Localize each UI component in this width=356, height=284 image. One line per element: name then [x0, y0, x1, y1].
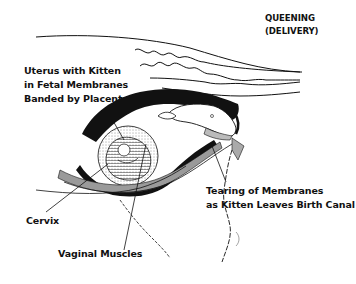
label-vaginal-muscles: Vaginal Muscles [58, 247, 142, 261]
label-tearing-line-1: Tearing of Membranes [206, 184, 355, 198]
leader-tearing [212, 146, 226, 182]
diagram-title: QUEENING (DELIVERY) [265, 12, 318, 38]
label-uterus-line-3: Banded by Placenta [24, 92, 129, 106]
queening-anatomy-illustration [0, 0, 356, 284]
label-uterus: Uterus with Kitten in Fetal Membranes Ba… [24, 64, 129, 106]
label-tearing-line-2: as Kitten Leaves Birth Canal [206, 198, 355, 212]
title-line-1: QUEENING [265, 12, 318, 25]
label-cervix: Cervix [26, 214, 59, 228]
torn-membrane [232, 138, 244, 160]
label-uterus-line-2: in Fetal Membranes [24, 78, 129, 92]
title-line-2: (DELIVERY) [265, 25, 318, 38]
kitten-fetus [106, 137, 151, 180]
label-uterus-line-1: Uterus with Kitten [24, 64, 129, 78]
label-tearing-of-membranes: Tearing of Membranes as Kitten Leaves Bi… [206, 184, 355, 212]
